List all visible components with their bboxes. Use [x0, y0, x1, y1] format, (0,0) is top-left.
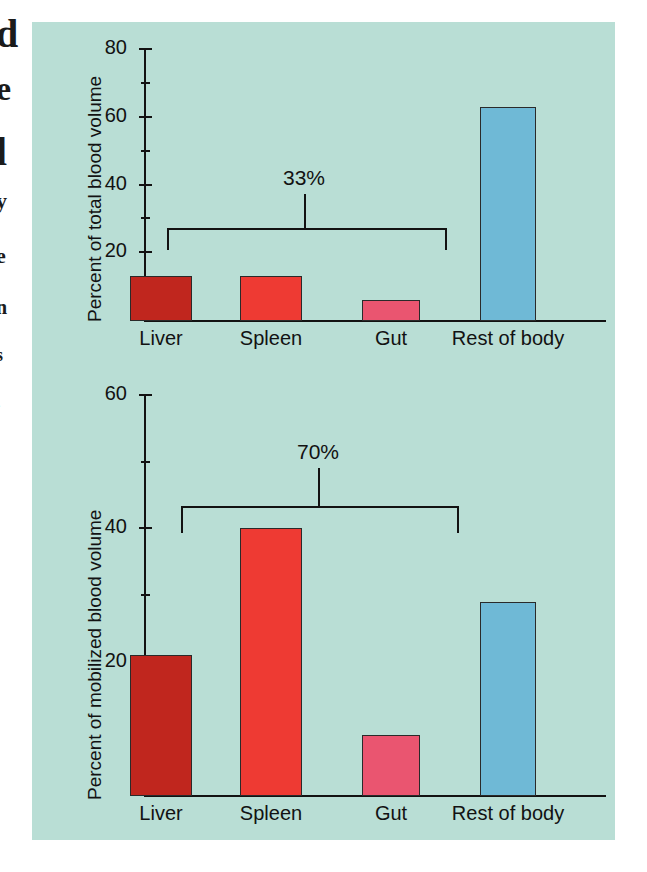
bracket-end-tick: [181, 506, 183, 533]
edge-bleed-fragment: e: [0, 243, 6, 269]
edge-bleed-fragment: e: [0, 70, 11, 108]
page-edge-bleed: delyens.: [0, 0, 32, 872]
y-axis-tick-label: 80: [87, 36, 127, 59]
bracket-stem: [318, 468, 320, 506]
y-axis-tick-minor: [141, 461, 150, 463]
bracket-end-tick: [445, 228, 447, 250]
y-axis-tick-label: 60: [87, 104, 127, 127]
y-axis-tick-major: [139, 527, 152, 529]
bracket-label: 33%: [244, 166, 364, 190]
bar-spleen: [240, 528, 302, 796]
edge-bleed-fragment: l: [0, 128, 7, 175]
bracket-horizontal: [167, 228, 447, 230]
bar-rest-of-body: [480, 107, 536, 321]
edge-bleed-fragment: n: [0, 296, 7, 319]
bracket-horizontal: [181, 506, 459, 508]
y-axis-tick-minor: [141, 217, 150, 219]
bracket-label: 70%: [258, 440, 378, 464]
y-axis-tick-minor: [141, 82, 150, 84]
edge-bleed-fragment: s: [0, 345, 3, 366]
x-axis-label-rest-of-body: Rest of body: [428, 802, 588, 825]
x-axis-label-rest-of-body: Rest of body: [428, 327, 588, 350]
y-axis-tick-major: [139, 184, 152, 186]
bar-liver: [130, 655, 192, 796]
bar-gut: [362, 735, 420, 796]
y-axis-tick-label: 20: [87, 239, 127, 262]
bar-spleen: [240, 276, 302, 321]
bracket-stem: [304, 194, 306, 228]
y-axis-tick-major: [139, 394, 152, 396]
y-axis-tick-minor: [141, 150, 150, 152]
bar-gut: [362, 300, 420, 321]
edge-bleed-fragment: .: [0, 392, 1, 413]
edge-bleed-fragment: y: [0, 188, 7, 214]
bar-rest-of-body: [480, 602, 536, 796]
y-axis-tick-label: 20: [87, 649, 127, 672]
y-axis-tick-label: 40: [87, 172, 127, 195]
y-axis-tick-minor: [141, 594, 150, 596]
y-axis-tick-major: [139, 48, 152, 50]
figure-panel: Percent of total blood volume 20406080Li…: [32, 22, 615, 840]
edge-bleed-fragment: d: [0, 10, 18, 57]
bracket-end-tick: [167, 228, 169, 250]
y-axis-tick-major: [139, 116, 152, 118]
y-axis-tick-label: 60: [87, 382, 127, 405]
bracket-end-tick: [457, 506, 459, 533]
y-axis-tick-label: 40: [87, 515, 127, 538]
bar-liver: [130, 276, 192, 321]
y-axis-tick-major: [139, 251, 152, 253]
